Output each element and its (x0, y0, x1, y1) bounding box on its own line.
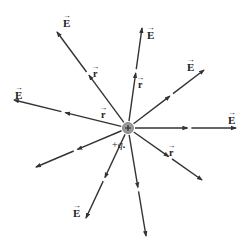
vector-arrow-icon: → (15, 84, 23, 92)
field-vector-label: →E (147, 30, 154, 41)
electric-field-diagram: →E→E→E→E→E→E→r→r→r→r +q. (0, 0, 251, 246)
field-line-lower-left (36, 131, 122, 167)
radius-vector-label: →r (138, 80, 142, 90)
vector-arrow-icon: → (167, 142, 175, 150)
vector-arrow-icon: → (228, 109, 236, 117)
radius-vector-label: →r (169, 148, 173, 158)
field-line-down (129, 135, 146, 236)
vector-arrow-icon: → (99, 104, 107, 112)
field-vector-label: →E (63, 18, 70, 29)
charge-label: +q. (112, 139, 125, 150)
field-line-up-left (57, 32, 124, 122)
vector-arrow-icon: → (136, 74, 144, 82)
field-vector-label: →E (73, 208, 80, 219)
field-lines (0, 0, 251, 246)
vector-arrow-icon: → (91, 63, 99, 71)
field-vector-label: →E (187, 62, 194, 73)
vector-arrow-icon: → (187, 56, 195, 64)
vector-arrow-icon: → (147, 24, 155, 32)
field-vector-label: →E (15, 90, 22, 101)
field-line-lower-right (134, 132, 202, 180)
point-charge (123, 123, 134, 134)
radius-vector-label: →r (93, 69, 97, 79)
vector-arrow-icon: → (63, 12, 71, 20)
radius-vector-label: →r (101, 110, 105, 120)
field-vector-label: →E (228, 115, 235, 126)
vector-arrow-icon: → (73, 202, 81, 210)
